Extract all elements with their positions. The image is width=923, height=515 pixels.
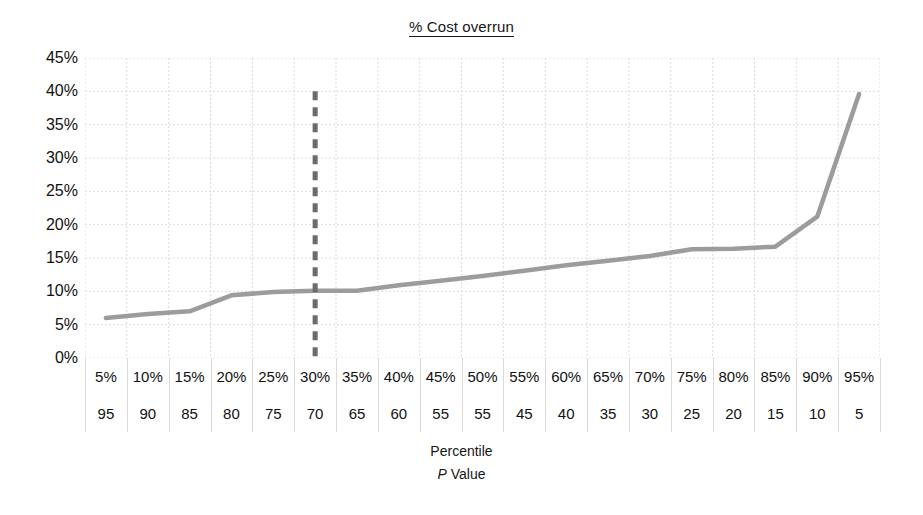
x-axis-pvalue-label: 95 (98, 395, 115, 432)
x-axis-cell-separator (169, 358, 170, 395)
x-axis-cell-separator (211, 395, 212, 432)
x-axis-cell-separator (838, 395, 839, 432)
pvalue-rest: Value (447, 466, 486, 482)
x-axis-pvalue-label: 65 (349, 395, 366, 432)
x-axis-percentile-label: 15% (175, 358, 205, 395)
x-axis-percentile-label: 85% (760, 358, 790, 395)
x-axis-cell-separator (85, 395, 86, 432)
x-axis-pvalue-label: 25 (683, 395, 700, 432)
x-axis-pvalue-label: 60 (390, 395, 407, 432)
x-axis-percentile-label: 65% (593, 358, 623, 395)
cost-overrun-chart: % Cost overrun 0%5%10%15%20%25%30%35%40%… (0, 0, 923, 515)
series-layer (85, 58, 880, 358)
y-axis: 0%5%10%15%20%25%30%35%40%45% (0, 58, 78, 358)
x-axis-percentile-label: 25% (258, 358, 288, 395)
series-line (106, 94, 859, 318)
x-axis-cell-separator (713, 358, 714, 395)
x-axis-cell-separator (671, 358, 672, 395)
plot-area (85, 58, 880, 358)
x-axis-cell-separator (754, 395, 755, 432)
x-axis-percentile-label: 50% (467, 358, 497, 395)
y-axis-tick: 35% (0, 116, 78, 134)
x-axis-percentile-label: 90% (802, 358, 832, 395)
x-axis-cell-separator (754, 358, 755, 395)
x-axis-cell-separator (252, 358, 253, 395)
x-axis-percentile-label: 40% (384, 358, 414, 395)
x-axis-pvalue-label: 45 (516, 395, 533, 432)
x-axis-cell-separator (880, 395, 881, 432)
x-axis-cell-separator (294, 358, 295, 395)
x-axis-pvalue-label: 80 (223, 395, 240, 432)
x-axis-cell-separator (503, 395, 504, 432)
y-axis-tick: 10% (0, 282, 78, 300)
x-axis-cell-separator (587, 395, 588, 432)
x-axis-cell-separator (85, 358, 86, 395)
x-axis-pvalue-label: 20 (725, 395, 742, 432)
x-axis-percentile-row: 5%10%15%20%25%30%35%40%45%50%55%60%65%70… (85, 358, 880, 395)
y-axis-tick: 40% (0, 82, 78, 100)
x-axis-percentile-label: 80% (719, 358, 749, 395)
pvalue-italic-p: P (437, 466, 446, 482)
x-axis-percentile-label: 45% (426, 358, 456, 395)
x-axis-percentile-label: 95% (844, 358, 874, 395)
x-axis-cell-separator (545, 395, 546, 432)
x-axis-percentile-label: 75% (677, 358, 707, 395)
x-axis-cell-separator (420, 358, 421, 395)
x-axis-cell-separator (796, 395, 797, 432)
x-axis-cell-separator (378, 358, 379, 395)
x-axis-label-rows: 5%10%15%20%25%30%35%40%45%50%55%60%65%70… (85, 358, 880, 432)
x-axis-pvalue-label: 55 (432, 395, 449, 432)
x-axis-cell-separator (629, 358, 630, 395)
x-axis-cell-separator (587, 358, 588, 395)
x-axis-pvalue-label: 10 (809, 395, 826, 432)
x-axis-cell-separator (880, 358, 881, 395)
x-axis-cell-separator (294, 395, 295, 432)
axis-captions: Percentile P Value (0, 440, 923, 486)
x-axis-cell-separator (252, 395, 253, 432)
x-axis-cell-separator (336, 358, 337, 395)
x-axis-cell-separator (671, 395, 672, 432)
chart-title: % Cost overrun (0, 18, 923, 35)
x-axis-pvalue-label: 15 (767, 395, 784, 432)
x-axis-cell-separator (462, 395, 463, 432)
x-axis-percentile-label: 35% (342, 358, 372, 395)
y-axis-tick: 5% (0, 316, 78, 334)
y-axis-tick: 0% (0, 349, 78, 367)
x-axis-pvalue-label: 40 (558, 395, 575, 432)
x-axis-percentile-label: 5% (95, 358, 117, 395)
x-axis-cell-separator (629, 395, 630, 432)
x-axis-pvalue-label: 35 (600, 395, 617, 432)
y-axis-tick: 30% (0, 149, 78, 167)
x-axis-cell-separator (378, 395, 379, 432)
x-axis-percentile-label: 70% (635, 358, 665, 395)
x-axis-pvalue-label: 30 (642, 395, 659, 432)
y-axis-tick: 25% (0, 182, 78, 200)
x-axis-cell-separator (503, 358, 504, 395)
x-axis-cell-separator (462, 358, 463, 395)
x-axis-cell-separator (169, 395, 170, 432)
x-axis-pvalue-label: 70 (307, 395, 324, 432)
x-axis-title-pvalue: P Value (0, 463, 923, 486)
y-axis-tick: 15% (0, 249, 78, 267)
chart-title-text: % Cost overrun (409, 18, 514, 37)
x-axis-cell-separator (127, 358, 128, 395)
x-axis-percentile-label: 20% (216, 358, 246, 395)
x-axis-title-percentile: Percentile (0, 440, 923, 463)
x-axis-cell-separator (336, 395, 337, 432)
x-axis-percentile-label: 55% (509, 358, 539, 395)
x-axis-pvalue-row: 9590858075706560555545403530252015105 (85, 395, 880, 432)
x-axis-cell-separator (127, 395, 128, 432)
x-axis-cell-separator (545, 358, 546, 395)
x-axis-cell-separator (838, 358, 839, 395)
x-axis-cell-separator (420, 395, 421, 432)
y-axis-tick: 20% (0, 216, 78, 234)
x-axis-pvalue-label: 85 (181, 395, 198, 432)
x-axis-pvalue-label: 90 (139, 395, 156, 432)
x-axis-pvalue-label: 75 (265, 395, 282, 432)
x-axis-percentile-label: 30% (300, 358, 330, 395)
x-axis-pvalue-label: 55 (474, 395, 491, 432)
y-axis-tick: 45% (0, 49, 78, 67)
x-axis-percentile-label: 10% (133, 358, 163, 395)
x-axis-cell-separator (713, 395, 714, 432)
x-axis-percentile-label: 60% (551, 358, 581, 395)
